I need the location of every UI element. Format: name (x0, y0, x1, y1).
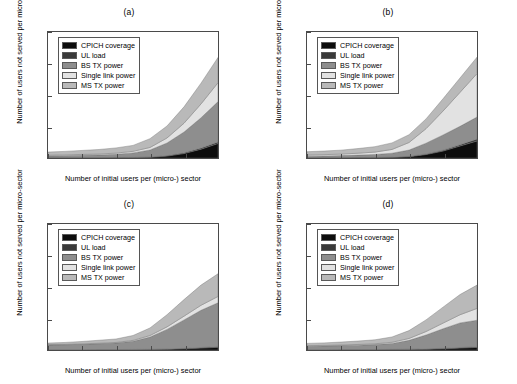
legend-item: UL load (62, 51, 135, 60)
legend-item: Single link power (321, 71, 394, 80)
plot-area: 05101520406080100120140CPICH coverageUL … (306, 31, 478, 159)
legend-item: UL load (321, 243, 394, 252)
legend-item-label: BS TX power (340, 62, 382, 69)
subplot-title: (d) (259, 199, 517, 209)
legend-item-label: Single link power (81, 72, 135, 79)
y-tick-mark (48, 128, 52, 129)
legend-item: UL load (62, 243, 135, 252)
x-tick-mark (410, 154, 411, 158)
x-tick-mark (48, 346, 49, 350)
y-tick-mark (307, 96, 311, 97)
y-tick-mark (307, 288, 311, 289)
legend-item: CPICH coverage (321, 233, 394, 242)
y-axis-label: Number of users not served per micro-sec… (274, 0, 283, 126)
legend-swatch-icon (62, 244, 77, 252)
x-tick-mark (307, 346, 308, 350)
x-tick-mark (117, 154, 118, 158)
legend-item: Single link power (321, 263, 394, 272)
x-tick-mark (151, 346, 152, 350)
plot-area: 05101520406080100120140CPICH coverageUL … (306, 223, 478, 351)
x-tick-mark (82, 346, 83, 350)
legend-swatch-icon (62, 42, 77, 50)
legend-item: CPICH coverage (62, 41, 135, 50)
legend-item: BS TX power (62, 61, 135, 70)
x-tick-mark (117, 346, 118, 350)
legend-swatch-icon (62, 234, 77, 242)
legend-swatch-icon (62, 254, 77, 262)
legend-item: BS TX power (321, 61, 394, 70)
subplot-title: (c) (0, 199, 258, 209)
x-tick-mark (376, 154, 377, 158)
legend-item: MS TX power (62, 81, 135, 90)
legend-swatch-icon (62, 72, 77, 80)
legend-swatch-icon (321, 254, 336, 262)
legend-item-label: MS TX power (340, 82, 383, 89)
legend-item-label: UL load (81, 244, 106, 251)
legend-item-label: UL load (81, 52, 106, 59)
legend-item-label: Single link power (340, 72, 394, 79)
legend-item-label: BS TX power (340, 254, 382, 261)
legend-item: Single link power (62, 263, 135, 272)
x-axis-label: Number of initial users per (micro-) sec… (306, 174, 478, 183)
y-tick-mark (48, 64, 52, 65)
y-tick-mark (48, 320, 52, 321)
figure-four-stacked-area-charts: (a)Number of users not served per micro-… (0, 0, 517, 384)
legend-item-label: MS TX power (340, 274, 383, 281)
legend-swatch-icon (321, 82, 336, 90)
legend-item-label: CPICH coverage (340, 234, 394, 241)
legend-item-label: CPICH coverage (81, 234, 135, 241)
legend-swatch-icon (62, 62, 77, 70)
subplot-d: (d)Number of users not served per micro-… (259, 192, 517, 384)
legend-item-label: Single link power (340, 264, 394, 271)
legend-item-label: BS TX power (81, 254, 123, 261)
y-axis-label: Number of users not served per micro-sec… (15, 0, 24, 126)
legend-swatch-icon (321, 264, 336, 272)
legend-swatch-icon (62, 52, 77, 60)
x-tick-mark (445, 346, 446, 350)
y-tick-mark (307, 128, 311, 129)
y-tick-mark (307, 64, 311, 65)
x-tick-mark (48, 154, 49, 158)
x-tick-mark (341, 154, 342, 158)
legend: CPICH coverageUL loadBS TX powerSingle l… (58, 37, 140, 94)
legend-item: MS TX power (62, 273, 135, 282)
y-axis-label: Number of users not served per micro-sec… (274, 168, 283, 318)
y-tick-mark (307, 256, 311, 257)
plot-area: 05101520406080100120140CPICH coverageUL … (47, 223, 219, 351)
x-tick-mark (445, 154, 446, 158)
legend-item: CPICH coverage (62, 233, 135, 242)
legend-swatch-icon (321, 52, 336, 60)
legend-item-label: UL load (340, 52, 365, 59)
legend-item-label: UL load (340, 244, 365, 251)
legend: CPICH coverageUL loadBS TX powerSingle l… (58, 229, 140, 286)
y-tick-mark (48, 32, 52, 33)
legend-item-label: MS TX power (81, 274, 124, 281)
legend-swatch-icon (321, 72, 336, 80)
legend-swatch-icon (321, 62, 336, 70)
legend-swatch-icon (62, 82, 77, 90)
x-axis-label: Number of initial users per (micro-) sec… (47, 366, 219, 375)
x-axis-label: Number of initial users per (micro-) sec… (47, 174, 219, 183)
y-tick-mark (48, 288, 52, 289)
legend: CPICH coverageUL loadBS TX powerSingle l… (317, 229, 399, 286)
x-tick-mark (341, 346, 342, 350)
y-tick-mark (307, 32, 311, 33)
legend-item-label: CPICH coverage (340, 42, 394, 49)
legend-swatch-icon (62, 274, 77, 282)
x-axis-label: Number of initial users per (micro-) sec… (306, 366, 478, 375)
y-tick-mark (48, 256, 52, 257)
legend-item: UL load (321, 51, 394, 60)
y-axis-label: Number of users not served per micro-sec… (15, 168, 24, 318)
y-tick-mark (48, 224, 52, 225)
x-tick-mark (376, 346, 377, 350)
subplot-title: (b) (259, 7, 517, 17)
subplot-b: (b)Number of users not served per micro-… (259, 0, 517, 192)
x-tick-mark (186, 154, 187, 158)
y-tick-mark (48, 96, 52, 97)
legend-swatch-icon (321, 274, 336, 282)
legend-item-label: BS TX power (81, 62, 123, 69)
legend-item: BS TX power (321, 253, 394, 262)
legend-item: BS TX power (62, 253, 135, 262)
legend-swatch-icon (62, 264, 77, 272)
subplot-a: (a)Number of users not served per micro-… (0, 0, 258, 192)
